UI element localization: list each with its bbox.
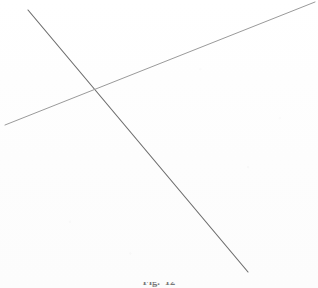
figure-caption: Fig.12: [0, 282, 318, 288]
figure-caption-label: Fig.: [143, 282, 160, 287]
figure-page: Fig.12: [0, 0, 318, 288]
ascending-line: [5, 2, 315, 125]
line-drawing-canvas: [0, 0, 318, 288]
descending-line: [28, 10, 248, 272]
figure-caption-text: Fig.12: [0, 282, 318, 287]
figure-caption-number: 12: [165, 282, 176, 287]
